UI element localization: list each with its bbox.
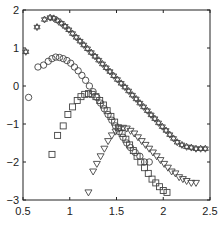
series-circle (25, 54, 152, 165)
triangle-marker (85, 190, 92, 196)
x-tick-label: 1 (67, 205, 73, 217)
y-tick-label: −2 (6, 156, 19, 168)
triangle-marker (142, 142, 149, 148)
triangle-marker (90, 169, 97, 175)
x-axis-tick-labels: 0.511.522.5 (15, 205, 217, 217)
square-marker (164, 189, 170, 195)
y-tick-label: 0 (13, 80, 19, 92)
y-tick-label: 1 (13, 42, 19, 54)
axis-ticks (23, 10, 210, 200)
triangle-marker (172, 171, 179, 177)
square-marker (60, 123, 66, 129)
triangle-marker (149, 150, 156, 156)
square-marker (55, 132, 61, 138)
square-marker (157, 184, 163, 190)
triangle-marker (97, 154, 104, 160)
data-series (23, 14, 209, 196)
triangle-marker (153, 154, 160, 160)
triangle-marker (108, 133, 115, 139)
circle-marker (25, 94, 31, 100)
square-marker (78, 94, 84, 100)
circle-marker (86, 83, 92, 89)
scatter-chart: 0.511.522.5 −3−2−1012 (0, 0, 220, 227)
plot-frame (23, 10, 210, 200)
x-tick-label: 1.5 (109, 205, 124, 217)
triangle-marker (101, 146, 108, 152)
y-tick-label: −3 (6, 194, 19, 206)
triangle-marker (146, 146, 153, 152)
triangle-marker (93, 161, 100, 167)
x-tick-label: 0.5 (15, 205, 30, 217)
triangle-marker (161, 161, 168, 167)
triangle-marker (164, 165, 171, 171)
y-tick-label: 2 (13, 4, 19, 16)
circle-marker (56, 54, 62, 60)
square-marker (70, 104, 76, 110)
square-marker (49, 151, 55, 157)
square-marker (153, 180, 159, 186)
triangle-marker (183, 179, 190, 185)
triangle-marker (105, 139, 112, 145)
series-triangle-down (85, 125, 200, 196)
circle-marker (82, 77, 88, 83)
circle-marker (71, 64, 77, 70)
circle-marker (60, 55, 66, 61)
square-marker (145, 170, 151, 176)
triangle-marker (138, 139, 145, 145)
series-hexagram (23, 14, 209, 152)
y-axis-tick-labels: −3−2−1012 (6, 4, 19, 206)
x-tick-label: 2 (160, 205, 166, 217)
square-marker (149, 176, 155, 182)
square-marker (138, 159, 144, 165)
circle-marker (146, 159, 152, 165)
square-marker (160, 188, 166, 194)
triangle-marker (135, 135, 142, 141)
y-tick-label: −1 (6, 118, 19, 130)
triangle-marker (157, 158, 164, 164)
square-marker (74, 97, 80, 103)
square-marker (65, 112, 71, 118)
x-tick-label: 2.5 (202, 205, 217, 217)
